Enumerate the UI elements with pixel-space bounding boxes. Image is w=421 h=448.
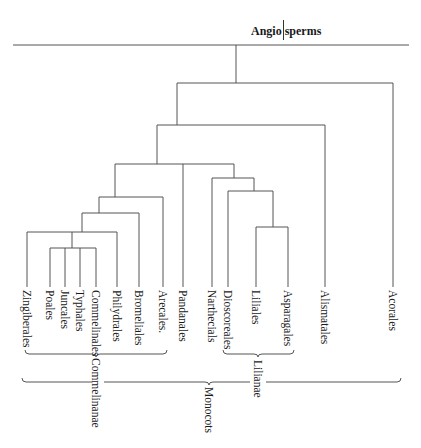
title-right: sperms [285, 24, 322, 39]
taxon-label: Liliales [250, 290, 262, 325]
taxon-label: Arecales. [157, 290, 169, 333]
taxon-label: Zingiberales [21, 290, 33, 347]
brace-monocots [22, 378, 401, 385]
title-divider [283, 20, 284, 40]
taxon-label: Dioscoreales [222, 290, 234, 349]
taxon-label: Commelinales [90, 290, 102, 356]
title-left: Angio [251, 24, 282, 39]
group-label: Commelinanae [90, 358, 102, 428]
taxon-label: Alismatales [319, 290, 331, 344]
taxon-label: Pandanales [177, 290, 189, 342]
brace-lilianae [223, 350, 294, 357]
taxon-label: Juncales [59, 290, 71, 329]
taxon-label: Philydrales [111, 290, 123, 342]
taxon-label: Bromeliales [133, 290, 145, 346]
taxon-label: Narthecials [206, 290, 218, 342]
group-label: Lilianae [252, 360, 264, 398]
taxon-label: Acorales [387, 290, 399, 331]
taxon-label: Asparagales [282, 290, 294, 346]
taxon-label: Typhales [74, 290, 86, 331]
taxon-label: Poales [44, 290, 56, 320]
diagram-title: Angiosperms [251, 20, 321, 40]
tree-lines [0, 0, 421, 448]
group-label: Monocots [203, 387, 215, 433]
